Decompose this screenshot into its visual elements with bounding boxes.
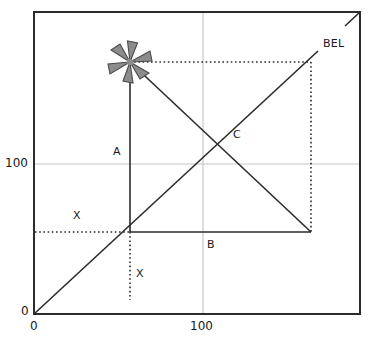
star-hub — [127, 59, 133, 65]
plot-canvas — [0, 0, 379, 340]
label-x-vertical: X — [136, 268, 144, 279]
star-petal-6 — [111, 44, 130, 62]
bel-line-upper — [345, 12, 360, 26]
label-bel: BEL — [323, 38, 345, 49]
bel-line-lower — [34, 51, 318, 314]
y-axis-tick-0: 0 — [21, 305, 29, 317]
dotted-guides — [35, 62, 311, 300]
label-c: C — [233, 129, 241, 140]
label-a: A — [113, 146, 121, 157]
label-b: B — [207, 239, 215, 250]
x-axis-tick-100: 100 — [190, 320, 213, 332]
series-c-diagonal — [130, 62, 311, 232]
chart-figure: 100 0 0 100 A B C X X BEL — [0, 0, 379, 340]
x-axis-tick-0: 0 — [30, 320, 38, 332]
label-x-horizontal: X — [73, 210, 81, 221]
y-axis-tick-100: 100 — [5, 157, 28, 169]
